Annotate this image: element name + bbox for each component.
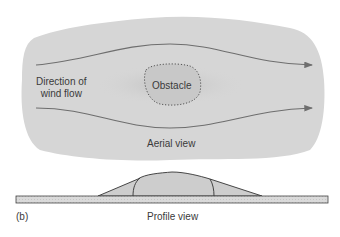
- profile-view-caption: Profile view: [147, 211, 198, 222]
- panel-label: (b): [16, 211, 28, 222]
- wind-direction-label: Direction of wind flow: [36, 76, 87, 100]
- aerial-view-caption: Aerial view: [147, 138, 195, 149]
- profile-mound: [98, 172, 262, 196]
- obstacle-label: Obstacle: [152, 80, 191, 91]
- diagram-canvas: [0, 0, 340, 237]
- profile-ground: [16, 196, 328, 203]
